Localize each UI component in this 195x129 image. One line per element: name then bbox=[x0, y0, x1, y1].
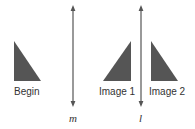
image2-label: Image 2 bbox=[149, 86, 185, 97]
reflection-diagram bbox=[0, 0, 195, 129]
image2-triangle bbox=[151, 41, 178, 81]
image1-label: Image 1 bbox=[99, 86, 135, 97]
line-m-label: m bbox=[69, 112, 77, 124]
begin-triangle bbox=[14, 41, 41, 81]
image1-triangle bbox=[103, 41, 131, 81]
line-l-label: l bbox=[139, 112, 142, 124]
begin-label: Begin bbox=[14, 86, 40, 97]
